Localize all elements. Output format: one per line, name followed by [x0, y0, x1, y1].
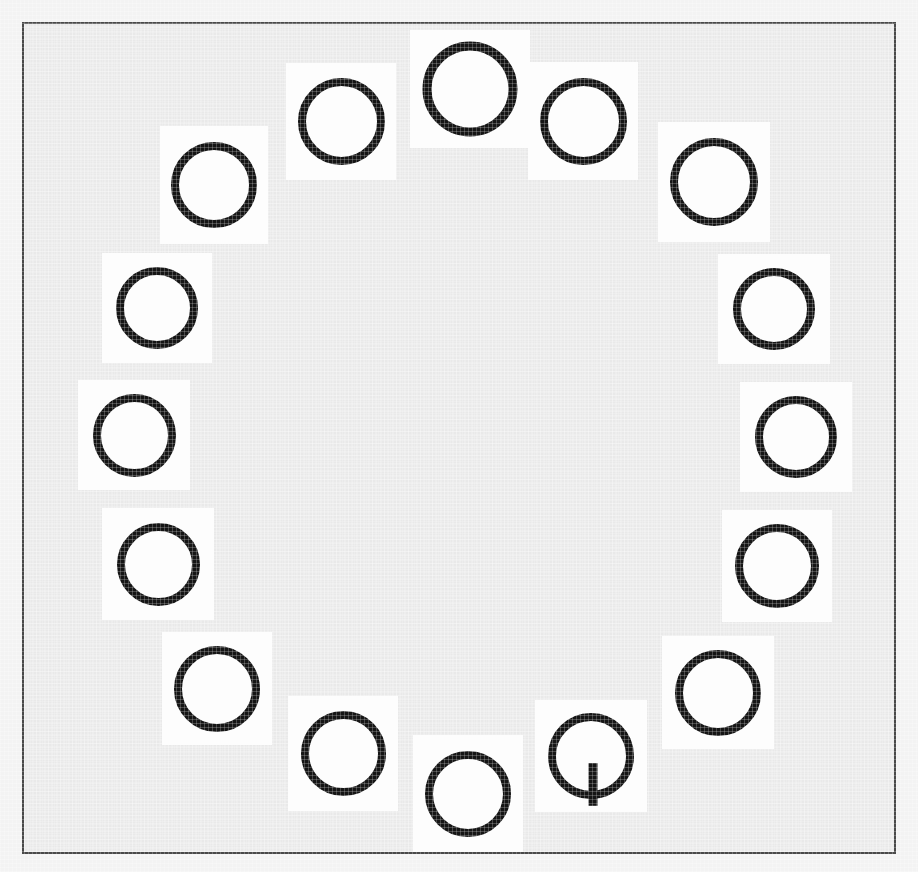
letter-o-glyph: [286, 66, 397, 177]
stimulus-tile[interactable]: [102, 508, 214, 620]
letter-o-glyph: [723, 512, 831, 620]
letter-q-glyph: [536, 701, 646, 811]
letter-q-tail: [589, 763, 598, 806]
stimulus-tile[interactable]: [78, 380, 190, 490]
letter-o-glyph: [663, 638, 773, 748]
letter-o-glyph: [410, 29, 530, 149]
stimulus-tile[interactable]: [288, 696, 398, 811]
stimulus-tile[interactable]: [662, 636, 774, 749]
letter-o-glyph: [105, 511, 212, 618]
letter-o-glyph: [721, 256, 827, 362]
stimulus-tile[interactable]: [410, 30, 530, 148]
letter-o-glyph: [159, 130, 269, 240]
letter-o-glyph: [81, 382, 188, 489]
stimulus-canvas: [22, 22, 896, 854]
stimulus-tile[interactable]: [286, 63, 396, 180]
letter-o-glyph: [289, 699, 398, 808]
letter-o-glyph: [162, 634, 272, 744]
letter-o-glyph: [104, 255, 210, 361]
stimulus-tile[interactable]: [162, 632, 272, 745]
letter-o-glyph: [528, 66, 639, 177]
stimulus-tile[interactable]: [658, 122, 770, 242]
stimulus-tile[interactable]: [740, 382, 852, 492]
letter-o-glyph: [743, 384, 849, 490]
stimulus-tile[interactable]: [722, 510, 832, 622]
stimulus-tile[interactable]: [535, 700, 647, 812]
screenshot-root: [0, 0, 918, 872]
letter-o-glyph: [658, 126, 770, 238]
letter-o-glyph: [413, 739, 523, 849]
stimulus-tile[interactable]: [102, 253, 212, 363]
stimulus-tile[interactable]: [718, 254, 830, 364]
stimulus-tile[interactable]: [160, 126, 268, 244]
stimulus-tile[interactable]: [413, 735, 523, 852]
stimulus-tile[interactable]: [528, 62, 638, 180]
